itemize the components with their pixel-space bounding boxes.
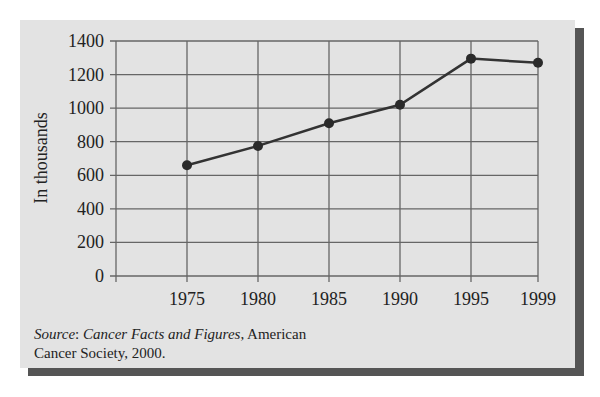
y-tick-label: 0 (95, 266, 104, 286)
y-tick-label: 600 (77, 165, 104, 185)
y-tick-label: 1000 (68, 98, 104, 118)
x-tick-label: 1999 (520, 289, 556, 309)
y-tick-label: 1400 (68, 31, 104, 51)
x-tick-label: 1975 (169, 289, 205, 309)
source-label: Source (34, 326, 75, 342)
source-title: Cancer Facts and Figures (83, 326, 240, 342)
data-point-marker (533, 58, 543, 68)
data-point-marker (253, 141, 263, 151)
x-tick-label: 1995 (453, 289, 489, 309)
y-axis-ticks: 0200400600800100012001400 (68, 31, 104, 286)
source-line2: Cancer Society, 2000. (34, 344, 306, 363)
y-tick-label: 200 (77, 232, 104, 252)
data-point-marker (466, 54, 476, 64)
y-tick-label: 400 (77, 199, 104, 219)
grid-lines (110, 41, 538, 282)
x-axis-ticks: 197519801985199019951999 (169, 289, 556, 309)
data-point-marker (182, 160, 192, 170)
source-caption: Source: Cancer Facts and Figures, Americ… (34, 325, 306, 363)
data-point-marker (395, 100, 405, 110)
y-tick-label: 1200 (68, 65, 104, 85)
x-tick-label: 1980 (240, 289, 276, 309)
y-tick-label: 800 (77, 132, 104, 152)
data-point-marker (324, 118, 334, 128)
x-tick-label: 1985 (311, 289, 347, 309)
y-axis-label: In thousands (31, 112, 51, 204)
x-tick-label: 1990 (382, 289, 418, 309)
